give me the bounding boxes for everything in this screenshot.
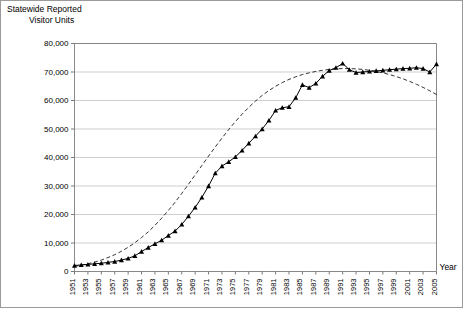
data-point-marker xyxy=(219,164,224,169)
data-point-marker xyxy=(434,62,439,67)
data-line xyxy=(75,63,437,265)
x-tick-label: 1977 xyxy=(242,279,251,296)
chart-frame: Statewide Reported Visitor Units 010,000… xyxy=(0,0,463,308)
plot-area: 010,00020,00030,00040,00050,00060,00070,… xyxy=(1,1,464,309)
y-tick-label: 30,000 xyxy=(44,182,69,191)
y-axis-tick-labels: 010,00020,00030,00040,00050,00060,00070,… xyxy=(44,39,69,276)
y-tick-label: 10,000 xyxy=(44,239,69,248)
x-tick-label: 1981 xyxy=(269,279,278,296)
x-tick-label: 1991 xyxy=(336,279,345,296)
data-point-marker xyxy=(327,68,332,73)
data-point-marker xyxy=(199,195,204,200)
data-point-marker xyxy=(307,85,312,90)
x-tick-label: 1969 xyxy=(188,279,197,296)
x-tick-label: 1971 xyxy=(202,279,211,296)
x-tick-label: 1989 xyxy=(322,279,331,296)
x-tick-label: 1953 xyxy=(81,279,90,296)
data-point-marker xyxy=(273,108,278,113)
data-point-marker xyxy=(340,61,345,66)
x-tick-label: 1999 xyxy=(389,279,398,296)
x-tick-label: 1993 xyxy=(349,279,358,296)
x-tick-label: 1979 xyxy=(255,279,264,296)
x-tick-label: 1983 xyxy=(282,279,291,296)
x-tick-label: 1963 xyxy=(148,279,157,296)
data-point-marker xyxy=(139,249,144,254)
x-tick-label: 1987 xyxy=(309,279,318,296)
x-tick-label: 1995 xyxy=(362,279,371,296)
y-tick-label: 40,000 xyxy=(44,153,69,162)
y-tick-label: 50,000 xyxy=(44,125,69,134)
y-tick-label: 70,000 xyxy=(44,68,69,77)
y-axis-ticks xyxy=(71,44,75,272)
x-tick-label: 1959 xyxy=(121,279,130,296)
x-tick-label: 1965 xyxy=(161,279,170,296)
data-point-marker xyxy=(300,82,305,87)
x-tick-label: 2003 xyxy=(416,279,425,296)
data-markers xyxy=(72,61,439,268)
y-tick-label: 80,000 xyxy=(44,39,69,48)
x-tick-label: 1957 xyxy=(108,279,117,296)
data-point-marker xyxy=(333,65,338,70)
x-tick-label: 1997 xyxy=(376,279,385,296)
x-tick-label: 1951 xyxy=(68,279,77,296)
x-axis-tick-labels: 1951195319551957195919611963196519671969… xyxy=(68,279,439,296)
y-tick-label: 60,000 xyxy=(44,96,69,105)
x-tick-label: 1961 xyxy=(135,279,144,296)
x-tick-label: 1973 xyxy=(215,279,224,296)
trend-line xyxy=(75,69,437,267)
data-point-marker xyxy=(159,238,164,243)
data-point-marker xyxy=(152,241,157,246)
x-tick-label: 1967 xyxy=(175,279,184,296)
gridlines xyxy=(75,44,437,244)
chart-svg: 010,00020,00030,00040,00050,00060,00070,… xyxy=(1,1,464,309)
x-tick-label: 1975 xyxy=(228,279,237,296)
x-axis-caption: Year xyxy=(440,262,457,272)
x-tick-label: 1955 xyxy=(94,279,103,296)
y-tick-label: 0 xyxy=(64,267,69,276)
x-tick-label: 1985 xyxy=(295,279,304,296)
x-tick-label: 2001 xyxy=(403,279,412,296)
data-point-marker xyxy=(146,245,151,250)
data-point-marker xyxy=(132,253,137,258)
x-tick-label: 2005 xyxy=(430,279,439,296)
y-tick-label: 20,000 xyxy=(44,210,69,219)
data-point-marker xyxy=(166,233,171,238)
data-point-marker xyxy=(293,95,298,100)
